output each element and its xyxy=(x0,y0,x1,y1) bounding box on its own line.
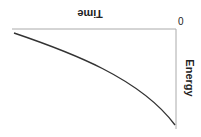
energy-time-chart: 0 Time Energy xyxy=(0,0,201,137)
chart-canvas: 0 Time Energy xyxy=(0,0,201,137)
y-axis-label: Energy xyxy=(184,59,196,97)
origin-tick-label: 0 xyxy=(178,16,184,27)
energy-curve xyxy=(14,33,175,125)
x-axis-label: Time xyxy=(77,8,102,20)
